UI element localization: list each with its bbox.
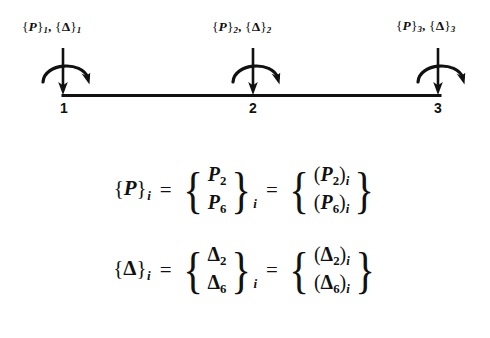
right-brace-glyph-3: } (232, 255, 252, 286)
left-brace-glyph-4: { (289, 255, 309, 286)
displacement-vector-outer-subscript: i (253, 276, 257, 292)
displacement-component-d2-i: (Δ2)i (314, 244, 350, 268)
beam-diagram: {P}1, {Δ}1 {P}2, {Δ}2 {P}3, {Δ}3 1 2 3 (0, 0, 490, 130)
equals-sign-4: = (266, 258, 278, 283)
displacement-vector-expanded: { (Δ2)i (Δ6)i } (287, 244, 377, 296)
node-1-load-arrows (43, 48, 90, 95)
equals-sign-3: = (160, 258, 172, 283)
node-3-number: 3 (434, 101, 442, 115)
node-1-load-label: {P}1, {Δ}1 (22, 20, 81, 35)
figure-page: {P}1, {Δ}1 {P}2, {Δ}2 {P}3, {Δ}3 1 2 3 {… (0, 0, 490, 338)
force-vector-components: { P2 P6 } i (181, 164, 257, 216)
displacement-component-d6: Δ6 (208, 272, 227, 296)
left-brace-glyph-2: { (289, 175, 309, 206)
equation-block: {P}i = { P2 P6 } i = { (P2)i (0, 150, 490, 310)
displacement-component-d2: Δ2 (208, 244, 227, 268)
force-vector-equation: {P}i = { P2 P6 } i = { (P2)i (0, 150, 490, 230)
displacement-vector-components: { Δ2 Δ6 } i (181, 244, 258, 296)
node-3-load-label: {P}3, {Δ}3 (396, 19, 455, 34)
equals-sign-2: = (266, 178, 278, 203)
force-component-p6-i: (P6)i (314, 192, 350, 216)
force-vector-lhs: {P}i (114, 178, 151, 202)
node-2-moment-arc (233, 66, 278, 82)
node-2-number: 2 (249, 101, 257, 115)
displacement-component-d6-i: (Δ6)i (314, 272, 350, 296)
force-vector-expanded: { (P2)i (P6)i } (287, 164, 377, 216)
right-brace-glyph-4: } (355, 255, 375, 286)
node-3-moment-arc (418, 66, 463, 82)
equals-sign-1: = (160, 178, 172, 203)
node-2-load-arrows (233, 48, 280, 95)
force-component-p2-i: (P2)i (314, 164, 350, 188)
left-brace-glyph: { (183, 175, 203, 206)
node-1-number: 1 (60, 101, 68, 115)
right-brace-glyph: } (231, 175, 251, 206)
node-2-load-label: {P}2, {Δ}2 (212, 20, 271, 35)
force-component-p2: P2 (208, 164, 227, 188)
displacement-vector-lhs: {Δ}i (113, 258, 150, 282)
node-1-moment-arc (43, 66, 88, 82)
right-brace-glyph-2: } (354, 175, 374, 206)
node-3-load-arrows (418, 48, 465, 95)
left-brace-glyph-3: { (183, 255, 203, 286)
displacement-vector-equation: {Δ}i = { Δ2 Δ6 } i = { (Δ2)i (0, 230, 490, 310)
force-vector-outer-subscript: i (253, 196, 257, 212)
force-component-p6: P6 (208, 192, 227, 216)
